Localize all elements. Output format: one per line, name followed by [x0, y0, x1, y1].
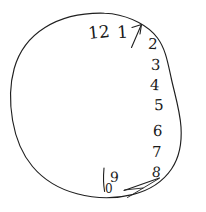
clock-numeral-6: 6	[153, 124, 163, 139]
clock-numeral-12: 12	[87, 23, 110, 42]
clock-drawing-canvas: 12 1 2 3 4 5 6 7 8 9 0	[0, 0, 206, 212]
clock-numeral-7: 7	[152, 145, 162, 160]
clock-numeral-2: 2	[147, 37, 158, 53]
clock-hand-lower-right	[124, 178, 160, 198]
clock-numeral-0: 0	[105, 183, 113, 195]
clock-numeral-5: 5	[154, 98, 164, 113]
clock-numeral-3: 3	[151, 58, 161, 73]
clock-numeral-1: 1	[116, 24, 128, 42]
clock-hand-upper-right	[132, 25, 142, 48]
clock-numeral-4: 4	[150, 78, 160, 93]
